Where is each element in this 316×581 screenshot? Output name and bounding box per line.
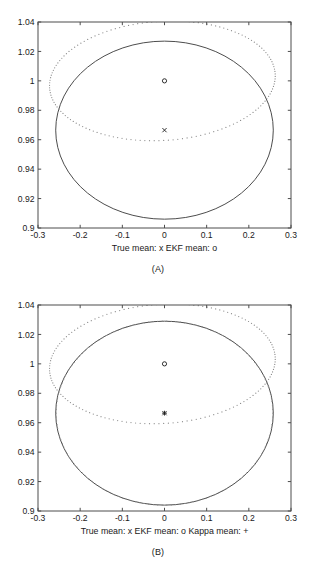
- svg-text:0.2: 0.2: [243, 230, 255, 240]
- svg-text:True mean: x EKF mean: o: True mean: x EKF mean: o: [112, 243, 217, 253]
- svg-text:0.98: 0.98: [18, 388, 35, 398]
- svg-text:-0.1: -0.1: [115, 230, 130, 240]
- svg-text:0.92: 0.92: [18, 477, 35, 487]
- plot-area-b: -0.3-0.2-0.100.10.20.30.90.920.940.960.9…: [0, 283, 316, 581]
- svg-text:1: 1: [30, 359, 35, 369]
- svg-text:0.92: 0.92: [18, 194, 35, 204]
- svg-text:0.96: 0.96: [18, 135, 35, 145]
- figure-panel-a: -0.3-0.2-0.100.10.20.30.90.920.940.960.9…: [0, 0, 316, 290]
- svg-text:0.3: 0.3: [285, 230, 297, 240]
- svg-text:0.94: 0.94: [18, 447, 35, 457]
- svg-text:0: 0: [162, 513, 167, 523]
- svg-text:-0.1: -0.1: [115, 513, 130, 523]
- svg-text:0.9: 0.9: [23, 223, 35, 233]
- svg-text:0.94: 0.94: [18, 164, 35, 174]
- svg-text:1.02: 1.02: [18, 330, 35, 340]
- svg-text:0.98: 0.98: [18, 105, 35, 115]
- svg-text:1.02: 1.02: [18, 47, 35, 57]
- svg-text:1: 1: [30, 76, 35, 86]
- svg-text:True mean: x EKF mean: o: True mean: x EKF mean: o Kappa mean: +: [81, 526, 249, 536]
- svg-text:1.04: 1.04: [18, 17, 35, 27]
- svg-text:0.96: 0.96: [18, 418, 35, 428]
- plot-area-a: -0.3-0.2-0.100.10.20.30.90.920.940.960.9…: [0, 0, 316, 290]
- svg-text:0.1: 0.1: [201, 230, 213, 240]
- svg-text:0: 0: [162, 230, 167, 240]
- svg-text:0.2: 0.2: [243, 513, 255, 523]
- svg-text:0.9: 0.9: [23, 506, 35, 516]
- panel-a-caption: (A): [0, 264, 316, 274]
- svg-text:1.04: 1.04: [18, 300, 35, 310]
- svg-text:-0.2: -0.2: [73, 513, 88, 523]
- svg-text:0.1: 0.1: [201, 513, 213, 523]
- figure-panel-b: -0.3-0.2-0.100.10.20.30.90.920.940.960.9…: [0, 283, 316, 581]
- svg-text:-0.2: -0.2: [73, 230, 88, 240]
- panel-b-caption: (B): [0, 547, 316, 557]
- svg-text:0.3: 0.3: [285, 513, 297, 523]
